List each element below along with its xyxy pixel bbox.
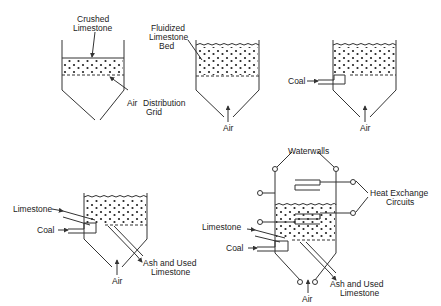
- fluidized-bed-diagram: Crushed Limestone Air Distribution Grid …: [0, 0, 441, 306]
- label-limestone: Limestone: [202, 222, 241, 232]
- label-waterwalls: Waterwalls: [288, 146, 329, 156]
- label-circuits: Circuits: [386, 197, 414, 207]
- panel-2-fluidized-bed: Fluidized Limestone Bed Air: [149, 23, 259, 133]
- label-grid: Grid: [146, 107, 162, 117]
- label-air: Air: [360, 123, 371, 133]
- panel-4-combustor: Limestone Coal Air Ash and Used Limeston…: [13, 193, 197, 286]
- label-coal: Coal: [288, 76, 306, 86]
- label-limestone: Limestone: [13, 204, 52, 214]
- label-air: Air: [127, 98, 138, 108]
- panel-3-coal-feed: Coal Air: [288, 40, 396, 133]
- label-used-limestone: Limestone: [340, 288, 379, 298]
- label-used-limestone: Limestone: [151, 267, 190, 277]
- label-air: Air: [112, 276, 123, 286]
- label-air: Air: [302, 294, 313, 304]
- label-coal: Coal: [226, 243, 244, 253]
- label-limestone: Limestone: [73, 23, 112, 33]
- label-coal: Coal: [37, 225, 55, 235]
- label-bed: Bed: [159, 41, 174, 51]
- label-air: Air: [223, 123, 234, 133]
- panel-5-boiler: Waterwalls Heat Exchange Circuits Limest…: [202, 146, 428, 304]
